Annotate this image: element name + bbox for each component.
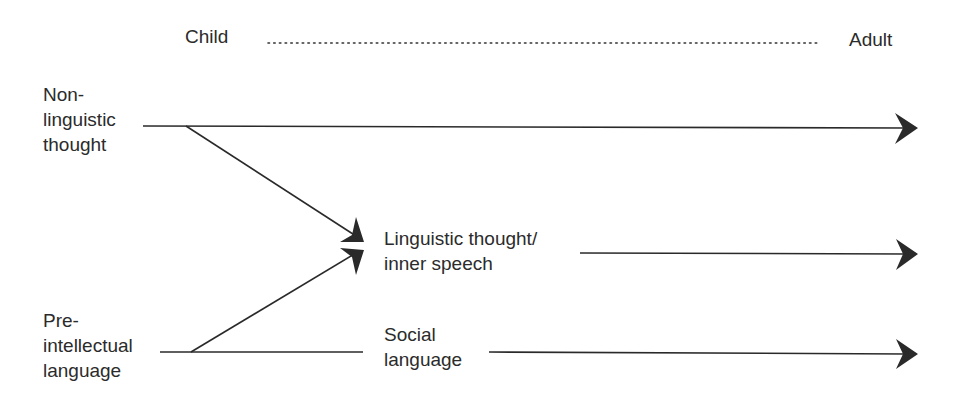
- preintellectual-to-linguistic-line: [191, 253, 356, 352]
- diagram-canvas: [0, 0, 964, 410]
- timeline-start-label: Child: [185, 24, 228, 49]
- linguistic-thought-label: Linguistic thought/ inner speech: [384, 226, 537, 276]
- social-language-label: Social language: [384, 322, 462, 372]
- social-language-line: [489, 352, 906, 354]
- nonlinguistic-thought-label: Non- linguistic thought: [43, 82, 116, 157]
- linguistic-thought-line: [580, 253, 906, 254]
- arrowhead-icon: [340, 217, 364, 242]
- timeline-end-label: Adult: [849, 27, 892, 52]
- arrowhead-icon: [340, 248, 364, 275]
- preintellectual-language-label: Pre- intellectual language: [43, 308, 133, 383]
- nonlinguistic-to-linguistic-line: [186, 126, 356, 236]
- nonlinguistic-line: [143, 126, 906, 128]
